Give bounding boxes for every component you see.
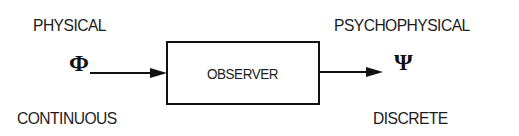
output-arrow [320, 67, 383, 77]
flow-arrows [0, 0, 519, 136]
input-arrow [90, 68, 167, 78]
